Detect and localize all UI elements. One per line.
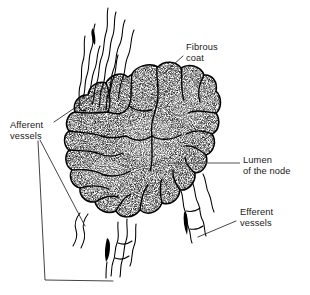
lymph-node-figure: Fibrous coat Afferent vessels Lumen of t… [0, 0, 310, 295]
flow-arrow-afferent-bottom [105, 238, 110, 262]
label-lumen-of-the-node: Lumen of the node [243, 155, 291, 176]
label-afferent-vessels-line1: Afferent [10, 120, 44, 130]
afferent-vessels-bottom [73, 213, 136, 277]
label-efferent-vessels-line2: vessels [240, 218, 272, 228]
label-fibrous-coat-line2: coat [186, 53, 204, 63]
label-afferent-vessels: Afferent vessels [10, 120, 44, 141]
label-afferent-vessels-line2: vessels [10, 131, 42, 141]
label-lumen-line1: Lumen [243, 155, 272, 165]
label-fibrous-coat: Fibrous coat [186, 42, 218, 63]
diagram-canvas: Fibrous coat Afferent vessels Lumen of t… [0, 0, 310, 295]
flow-arrow-afferent-top [91, 28, 95, 45]
label-fibrous-coat-line1: Fibrous [186, 42, 218, 52]
label-efferent-vessels: Efferent vessels [240, 207, 274, 228]
afferent-arrow-stem-bottom [106, 262, 107, 278]
label-efferent-vessels-line1: Efferent [240, 207, 274, 217]
flow-arrow-efferent [184, 212, 188, 235]
label-lumen-line2: of the node [243, 166, 291, 176]
